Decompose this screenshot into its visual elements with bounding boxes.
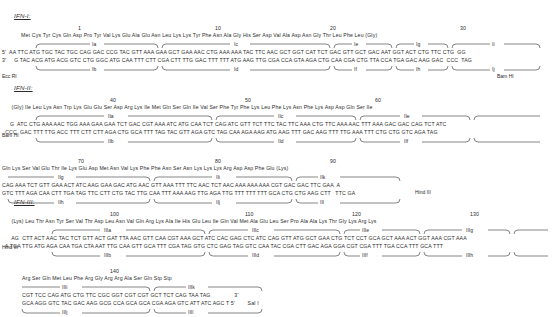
residue-number: 50	[245, 97, 251, 103]
restriction-site-row: Hind III	[0, 260, 557, 266]
fragment-label: Ie	[354, 41, 358, 47]
residue-number: 140	[110, 268, 119, 274]
fragment-bracket-row-top: IIg IIi IIk	[0, 173, 557, 182]
fragment-label: IIIc	[252, 227, 259, 233]
fragment-label: IIIi	[62, 284, 67, 290]
fragment-label: IIIa	[104, 227, 111, 233]
fragment-label: IIIe	[362, 227, 369, 233]
section-ifn-ii: IFN-II: 40 50 60 (Gly) Ile Leu Lys Asn T…	[0, 84, 557, 215]
dna-strand-3prime: GTC TTT AGA CAA CTT TGA TAG TTC CTT CTG …	[0, 190, 557, 198]
fragment-bracket-row-top: IIa IIc IIe	[0, 112, 557, 121]
fragment-bracket-row-top: Ia Ic Ie Ig Ii	[0, 40, 557, 49]
fragment-label: IIIk	[188, 284, 195, 290]
amino-acid-sequence: Gln Lys Ser Val Glu Thr Ile Lys Glu Asp …	[0, 165, 557, 173]
fragment-label: Ia	[92, 41, 96, 47]
residue-number: 110	[245, 211, 254, 217]
amino-acid-sequence: (Gly) Ile Leu Lys Asn Trp Lys Glu Glu Se…	[0, 104, 557, 112]
fragment-label: Ij	[492, 66, 495, 72]
fragment-label: IIIh	[466, 252, 473, 258]
dna-strand-5prime: CAG AAA TCT GTT GAA ACT ATC AAG GAA GAC …	[0, 182, 557, 190]
fragment-label: IIc	[278, 113, 283, 119]
dna-strand-5prime: G ATC CTG AAA AAC TGG AAA GAA GAA TCT GA…	[0, 121, 557, 129]
restriction-site-bamhi: Bam HI	[497, 73, 514, 79]
fragment-label: Id	[234, 66, 238, 72]
restriction-site-row: Ecc RI Bam HI	[0, 74, 557, 82]
dna-strand-3prime: CCC GAC TTT TTG ACC TTT CTT CTT AGA CTG …	[0, 129, 557, 137]
section-label-ifn-i: IFN-I:	[0, 12, 557, 19]
fragment-bracket-row-bottom: Ib Id If Ih Ij	[0, 65, 557, 74]
fragment-label: IIa	[108, 113, 114, 119]
residue-number: 70	[78, 158, 84, 164]
residue-number: 120	[352, 211, 361, 217]
amino-acid-sequence: (Lys) Leu Thr Asn Tyr Ser Val Thr Asp Le…	[0, 218, 557, 226]
bracket-lines-bottom	[0, 65, 557, 74]
bracket-lines-top	[0, 226, 557, 235]
residue-number: 60	[375, 97, 381, 103]
dna-strand-5prime: AG CTT ACT AAC TAC TCT GTT ACT GAT TTA A…	[0, 235, 557, 243]
residue-number-row: 1 10 20 30	[0, 25, 557, 32]
residue-number: 90	[330, 158, 336, 164]
figure-canvas: IFN-I: 1 10 20 30 Met Cys Tyr Cys Gln As…	[0, 0, 557, 317]
dna-strand-5prime: 5' AA TTC ATG TGC TAC TGC CAG GAC CCG TA…	[0, 49, 557, 57]
residue-number: 130	[470, 211, 479, 217]
fragment-bracket-row-top: IIIa IIIc IIIe IIIg	[0, 226, 557, 235]
fragment-label: IIIj	[62, 309, 67, 315]
residue-number: 40	[110, 97, 116, 103]
fragment-label: Ic	[234, 41, 238, 47]
amino-acid-sequence: Arg Ser Gln Met Leu Phe Arg Gly Arg Arg …	[0, 275, 557, 283]
fragment-label: IIIg	[466, 227, 473, 233]
fragment-label: IIk	[320, 174, 325, 180]
fragment-label: IIIb	[104, 252, 111, 258]
section-ifn-i: IFN-I: 1 10 20 30 Met Cys Tyr Cys Gln As…	[0, 12, 557, 82]
fragment-label: IIIf	[362, 252, 368, 258]
fragment-bracket-row-bottom: IIIb IIId IIIf IIIh	[0, 251, 557, 260]
residue-number: 10	[215, 25, 221, 31]
dna-strand-3prime: GCA AGG GTC TAC GAC AAG GCG CCA GCA GCA …	[0, 300, 557, 308]
fragment-bracket-row-top: IIIi IIIk	[0, 283, 557, 292]
fragment-label: IIi	[216, 174, 220, 180]
bracket-lines-bottom	[0, 251, 557, 260]
dna-strand-3prime: A TGA TTG ATG AGA CAA TGA CTA AAT TTG CA…	[0, 243, 557, 251]
fragment-bracket-row-bottom: IIIj IIIl	[0, 308, 557, 317]
fragment-label: IId	[278, 138, 284, 144]
fragment-bracket-row-bottom: IIb IId IIf	[0, 137, 557, 146]
section-label-ifn-iii: IFN-III:	[0, 198, 557, 205]
dna-strand-5prime: CGT TCC CAG ATG CTG TTC CGC GGT CGT CGT …	[0, 292, 557, 300]
residue-number: 100	[110, 211, 119, 217]
bracket-lines-top	[0, 283, 557, 292]
residue-number-row: 70 80 90	[0, 158, 557, 165]
restriction-site-bamhi: Bam HI	[2, 132, 19, 138]
bracket-lines-top	[0, 40, 557, 49]
fragment-label: IIf	[404, 138, 408, 144]
bracket-lines-top	[0, 173, 557, 182]
bracket-lines-bottom	[0, 308, 557, 317]
section-ifn-iii: IFN-III: 100 110 120 130 (Lys) Leu Thr A…	[0, 198, 557, 317]
fragment-label: IIb	[108, 138, 114, 144]
residue-number: 1	[78, 25, 81, 31]
fragment-label: Ii	[492, 41, 495, 47]
residue-number-row: 140	[0, 268, 557, 275]
fragment-label: IIId	[252, 252, 259, 258]
fragment-label: Ib	[92, 66, 96, 72]
fragment-label: IIe	[404, 113, 410, 119]
amino-acid-sequence: Met Cys Tyr Cys Gln Asp Pro Tyr Val Lys …	[0, 32, 557, 40]
restriction-site-hindiii: Hind III	[2, 244, 18, 250]
restriction-site-hindiii: Hind III	[415, 189, 431, 195]
fragment-label: IIIl	[188, 309, 193, 315]
residue-number: 80	[215, 158, 221, 164]
fragment-label: IIg	[58, 174, 64, 180]
restriction-site-row: Bam HI	[0, 146, 557, 156]
residue-number: 20	[330, 25, 336, 31]
residue-number-row: 40 50 60	[0, 97, 557, 104]
dna-strand-3prime: 3' G TAC ACG ATG ACG GTC CTG GGC ATG CAA…	[0, 57, 557, 65]
fragment-label: Ig	[416, 41, 420, 47]
residue-number-row: 100 110 120 130	[0, 211, 557, 218]
residue-number: 30	[460, 25, 466, 31]
fragment-label: Ih	[416, 66, 420, 72]
section-label-ifn-ii: IFN-II:	[0, 84, 557, 91]
fragment-label: If	[354, 66, 357, 72]
restriction-site-ecori: Ecc RI	[2, 73, 17, 79]
